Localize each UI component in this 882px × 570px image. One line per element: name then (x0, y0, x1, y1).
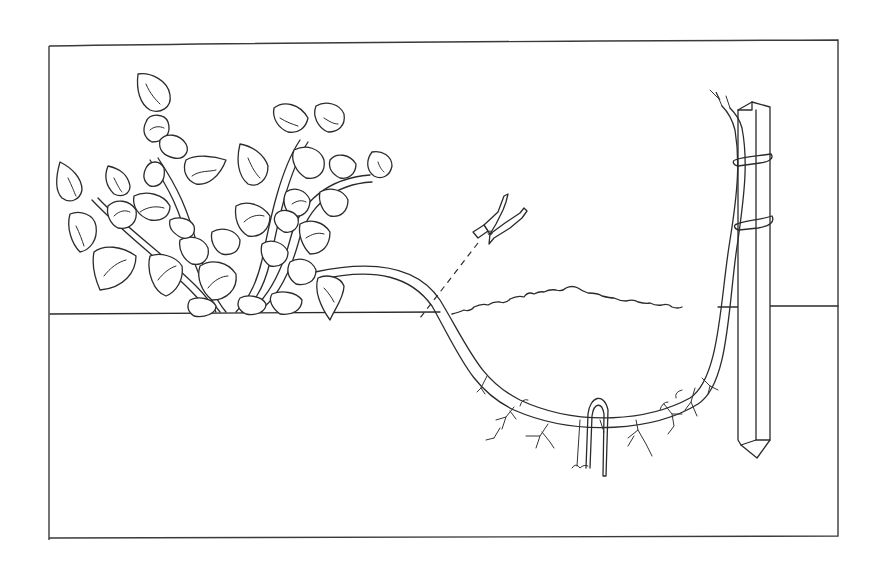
adventitious-roots (477, 376, 718, 456)
illustration-canvas (0, 0, 882, 570)
cut-indicator-line (420, 243, 478, 318)
soil-mound (452, 287, 682, 315)
layering-illustration: Serpentine layering of a vining plant (0, 0, 882, 570)
soil-pin (572, 398, 608, 476)
clip-icon (473, 194, 527, 244)
layered-stem (315, 90, 745, 428)
plant-leaves (57, 74, 393, 320)
